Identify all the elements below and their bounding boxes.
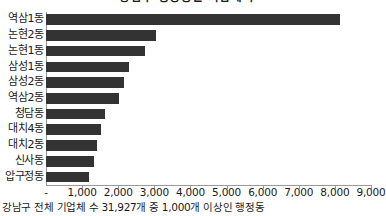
bar	[46, 172, 89, 183]
category-label: 대치2동	[8, 139, 44, 151]
chart-footnote: 강남구 전체 기업체 수 31,927개 중 1,000개 이상인 행정동	[2, 201, 264, 214]
category-label: 청담동	[15, 108, 44, 120]
x-axis-tick-label: 4,000	[176, 186, 205, 198]
bar-row	[46, 138, 371, 154]
bar	[46, 156, 94, 167]
bar	[46, 30, 156, 41]
bar-row	[46, 154, 371, 170]
category-label: 역삼1동	[8, 13, 44, 25]
bar	[46, 46, 145, 57]
x-axis-tick-label: 3,000	[140, 186, 169, 198]
bar-row	[46, 169, 371, 185]
chart-title: 강남구 행정동별 기업체 수	[0, 0, 377, 4]
bar-row	[46, 106, 371, 122]
x-axis-tick-label: 1,000	[68, 186, 97, 198]
x-axis-tick-label: 6,000	[248, 186, 277, 198]
bar	[46, 14, 340, 25]
x-axis-tick-label: 7,000	[284, 186, 313, 198]
bar-row	[46, 91, 371, 107]
bar-row	[46, 43, 371, 59]
category-label: 삼성1동	[8, 61, 44, 73]
category-label: 삼성2동	[8, 76, 44, 88]
bar	[46, 93, 119, 104]
category-label: 대치4동	[8, 123, 44, 135]
bar	[46, 77, 124, 88]
bar-row	[46, 12, 371, 28]
category-label: 역삼2동	[8, 92, 44, 104]
bar	[46, 124, 101, 135]
bar-row	[46, 28, 371, 44]
x-axis-tick-label: 8,000	[320, 186, 349, 198]
category-label: 압구정동	[5, 171, 44, 183]
x-axis-tick-label: 5,000	[212, 186, 241, 198]
bar	[46, 140, 97, 151]
bar-row	[46, 75, 371, 91]
bar	[46, 62, 129, 73]
plot-area	[46, 12, 371, 185]
bar	[46, 109, 105, 120]
x-axis-tick-label: -	[44, 186, 48, 198]
category-label: 논현2동	[8, 29, 44, 41]
category-label: 논현1동	[8, 45, 44, 57]
x-axis-tick-label: 9,000	[356, 186, 385, 198]
bar-row	[46, 59, 371, 75]
category-label: 신사동	[15, 155, 44, 167]
x-axis-tick-label: 2,000	[104, 186, 133, 198]
bar-row	[46, 122, 371, 138]
